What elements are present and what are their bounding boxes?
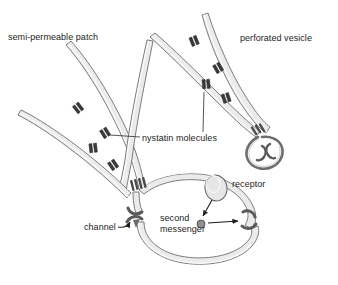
- label-second-messenger-line2: messenger: [160, 224, 205, 235]
- label-second-messenger-line1: second: [160, 213, 189, 224]
- nystatin-pair-4: [107, 159, 118, 171]
- perforated-vesicle-inner: [249, 139, 280, 166]
- label-receptor: receptor: [232, 179, 265, 190]
- label-channel: channel: [84, 222, 116, 233]
- perforated-vesicle-body: [246, 137, 282, 169]
- label-semi-permeable-patch: semi-permeable patch: [8, 32, 98, 43]
- leader-line-to-top-molecules: [203, 92, 204, 132]
- vesicle-membrane-far-left-highlight: [20, 114, 129, 198]
- nystatin-molecules-group: [72, 35, 231, 170]
- nystatin-pair-5: [189, 35, 199, 46]
- label-perforated-vesicle: perforated vesicle: [240, 33, 312, 44]
- nystatin-perforated-patch-diagram: semi-permeable patch perforated vesicle …: [0, 0, 338, 285]
- label-nystatin-molecules: nystatin molecules: [142, 133, 217, 144]
- vesicle-channel-hook-a: [257, 146, 266, 160]
- nystatin-pair-3: [89, 143, 97, 153]
- vesicle-channel-hook-b: [266, 144, 275, 158]
- messenger-to-channel-arrow: [208, 221, 238, 223]
- patch-membrane-tail: [133, 192, 142, 213]
- vesicle-membrane-far-left: [18, 110, 131, 198]
- receptor-to-messenger-arrow: [203, 200, 212, 216]
- nystatin-pair-1: [72, 102, 83, 114]
- nystatin-pair-2: [100, 127, 111, 139]
